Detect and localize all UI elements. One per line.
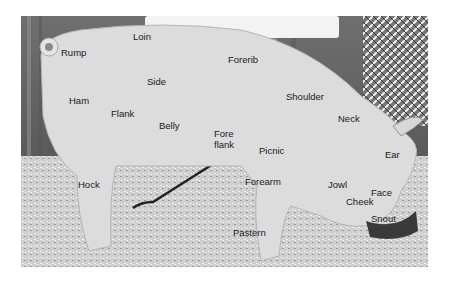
label-forerib: Forerib — [228, 55, 258, 65]
label-face: Face — [371, 188, 392, 198]
label-jowl: Jowl — [328, 180, 347, 190]
label-fore: Fore — [214, 129, 234, 139]
label-forearm: Forearm — [245, 177, 281, 187]
label-belly: Belly — [159, 121, 180, 131]
label-cheek: Cheek — [346, 197, 373, 207]
label-flank: Flank — [111, 109, 134, 119]
label-hock: Hock — [78, 180, 100, 190]
label-snout: Snout — [371, 214, 396, 224]
label-neck: Neck — [338, 114, 360, 124]
label-shoulder: Shoulder — [286, 92, 324, 102]
label-fore-flank: flank — [214, 140, 234, 150]
label-picnic: Picnic — [259, 146, 284, 156]
label-ear: Ear — [385, 150, 400, 160]
pig-photo: Loin Rump Forerib Side Ham Shoulder Flan… — [21, 16, 428, 267]
label-loin: Loin — [133, 32, 151, 42]
label-rump: Rump — [61, 48, 86, 58]
label-pastern: Pastern — [233, 228, 266, 238]
label-side: Side — [147, 77, 166, 87]
label-ham: Ham — [69, 96, 89, 106]
